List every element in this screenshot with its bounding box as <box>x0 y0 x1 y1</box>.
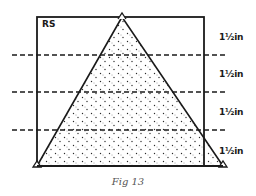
section-label-3: 1½in <box>219 107 243 117</box>
figure-caption: Fig 13 <box>0 176 256 187</box>
diagram-canvas <box>0 0 256 196</box>
section-label-1: 1½in <box>219 32 243 42</box>
rs-label: RS <box>42 19 55 29</box>
section-label-4: 1½in <box>219 146 243 156</box>
apex-marker-icon <box>118 13 126 19</box>
section-label-2: 1½in <box>219 69 243 79</box>
